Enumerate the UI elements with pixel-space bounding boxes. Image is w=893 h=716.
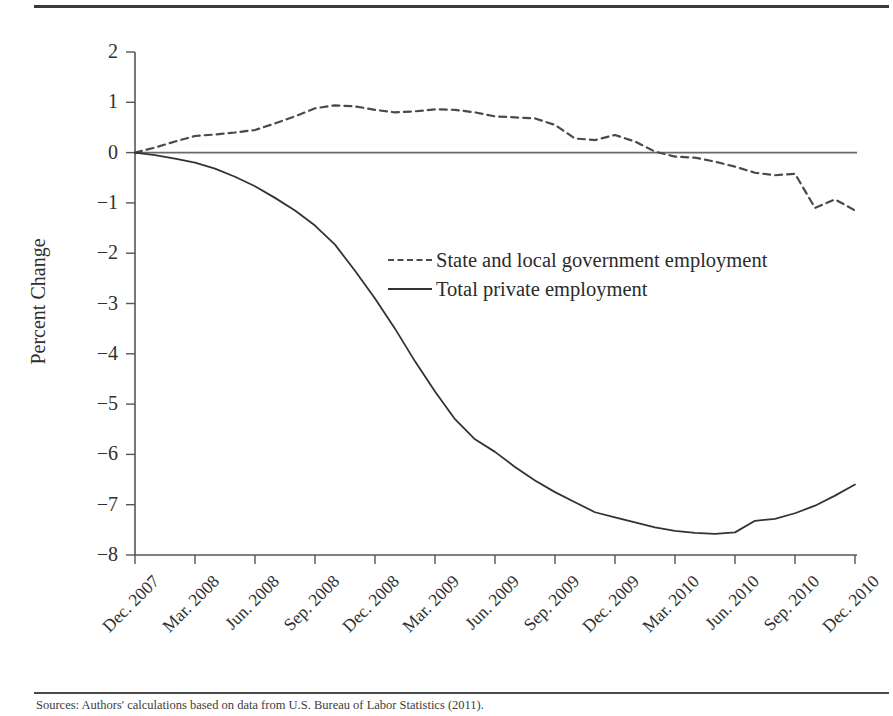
y-tick-label: 1 <box>78 91 118 111</box>
bottom-rule <box>34 692 889 694</box>
y-tick-label: 2 <box>78 41 118 61</box>
legend-item-total-private: Total private employment <box>388 275 858 304</box>
legend-solid-swatch-icon <box>388 288 432 290</box>
y-tick-label: −8 <box>78 544 118 564</box>
x-tick-marks <box>135 555 855 564</box>
legend-label: State and local government employment <box>436 246 767 274</box>
y-tick-label: −2 <box>78 242 118 262</box>
chart-plot-area: Percent Change 210−1−2−3−4−5−6−7−8 Dec. … <box>0 0 893 690</box>
series-line-total-private-employment <box>135 153 855 534</box>
legend-dashed-swatch-icon <box>388 259 432 261</box>
y-tick-label: −6 <box>78 443 118 463</box>
series-line-state-and-local-government-employment <box>135 105 855 210</box>
figure-source-caption: Sources: Authors' calculations based on … <box>36 699 886 712</box>
y-tick-label: −4 <box>78 343 118 363</box>
chart-legend: State and local government employment To… <box>388 246 858 304</box>
y-axis-title: Percent Change <box>27 202 50 402</box>
y-tick-marks <box>126 52 135 555</box>
y-tick-label: 0 <box>78 142 118 162</box>
y-tick-label: −7 <box>78 494 118 514</box>
data-series-group <box>135 105 855 534</box>
y-tick-label: −5 <box>78 393 118 413</box>
legend-item-state-local: State and local government employment <box>388 246 858 275</box>
legend-label: Total private employment <box>436 275 647 303</box>
y-tick-label: −1 <box>78 192 118 212</box>
y-tick-label: −3 <box>78 293 118 313</box>
